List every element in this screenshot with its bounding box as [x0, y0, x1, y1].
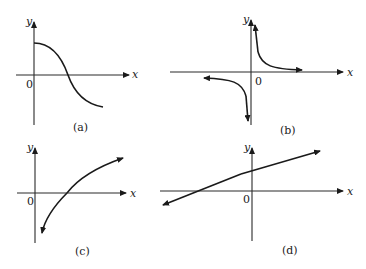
- origin-label: 0: [243, 193, 250, 206]
- curve-branch-2-down: [246, 96, 248, 121]
- x-axis-label: x: [347, 66, 354, 79]
- line-down: [163, 174, 241, 205]
- curve-branch-1-up: [255, 25, 258, 52]
- curve-branch-2: [204, 78, 246, 96]
- graphs-figure: y x 0 (a) y x 0 (b) y x 0 (c) y x 0: [0, 0, 366, 269]
- curve-branch-1: [258, 52, 302, 70]
- panel-a: y x 0 (a): [16, 15, 139, 134]
- origin-label: 0: [27, 195, 34, 208]
- origin-label: 0: [255, 75, 262, 88]
- curve-upper: [67, 158, 123, 193]
- panel-c: y x 0 (c): [17, 141, 137, 258]
- caption: (d): [282, 244, 298, 257]
- y-axis-label: y: [26, 141, 34, 154]
- caption: (c): [75, 245, 90, 258]
- x-axis-label: x: [347, 185, 354, 198]
- caption: (b): [280, 124, 296, 137]
- curve-lower: [42, 193, 67, 233]
- caption: (a): [73, 121, 88, 134]
- panel-b: y x 0 (b): [170, 13, 354, 137]
- y-axis-label: y: [243, 141, 251, 154]
- origin-label: 0: [26, 78, 33, 91]
- y-axis-label: y: [25, 15, 33, 28]
- x-axis-label: x: [132, 68, 139, 81]
- y-axis-label: y: [242, 13, 250, 26]
- line-up: [241, 151, 320, 174]
- panel-d: y x 0 (d): [160, 141, 354, 257]
- x-axis-label: x: [130, 187, 137, 200]
